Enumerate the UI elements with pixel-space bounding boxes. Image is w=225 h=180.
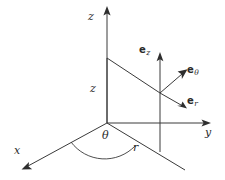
e-z-label: ez: [139, 44, 150, 57]
e-theta-arrowhead: [178, 69, 188, 79]
vertical-plane: [107, 58, 160, 123]
theta-arc-path: [71, 142, 135, 159]
unit-vector-e-r: [160, 93, 187, 109]
figure-canvas: [0, 0, 225, 180]
radius-line: [107, 123, 185, 170]
radius-segment: [107, 123, 185, 170]
radius-r-label: r: [133, 142, 138, 153]
e-z-subscript: z: [146, 48, 150, 57]
x-axis-arrowhead: [22, 162, 33, 170]
e-r-arrowhead: [177, 102, 187, 109]
plane-top-edge: [107, 58, 160, 93]
e-theta-shaft: [160, 74, 182, 93]
e-r-base: e: [187, 95, 194, 106]
unit-vector-e-z: [157, 52, 164, 93]
x-axis-label: x: [14, 145, 20, 156]
e-r-shaft: [160, 93, 181, 105]
x-axis: [22, 123, 108, 170]
y-axis-label: y: [205, 127, 211, 138]
cylindrical-coordinates-figure: z y x z θ r ez eθ er: [0, 0, 225, 180]
e-r-subscript: r: [194, 99, 198, 108]
e-r-label: er: [187, 95, 198, 108]
e-theta-label: eθ: [187, 64, 199, 77]
e-theta-subscript: θ: [194, 68, 199, 77]
height-z-label: z: [90, 83, 96, 94]
y-axis: [107, 119, 211, 126]
z-axis-label: z: [88, 11, 94, 22]
theta-angle-label: θ: [102, 130, 109, 141]
theta-arc: [71, 142, 135, 159]
x-axis-line: [28, 123, 107, 166]
e-z-base: e: [139, 44, 146, 55]
unit-vector-e-theta: [160, 69, 188, 93]
e-theta-base: e: [187, 64, 194, 75]
